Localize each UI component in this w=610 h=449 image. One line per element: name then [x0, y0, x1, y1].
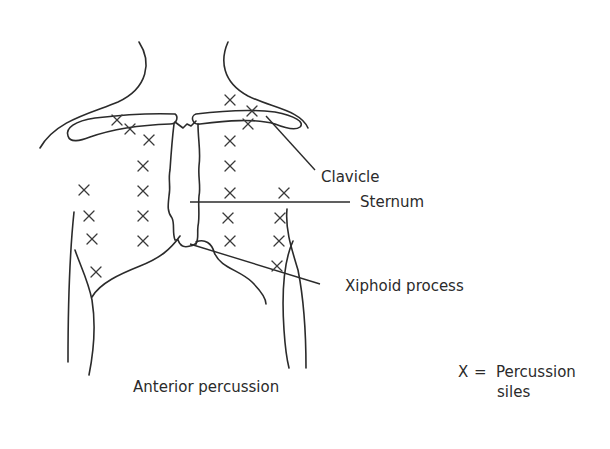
percussion-site-x-icon [91, 267, 101, 277]
percussion-site-x-icon [225, 188, 235, 198]
xiphoid-leader-line [190, 244, 320, 284]
sternum-left-edge [168, 124, 178, 240]
torso-left-side [75, 250, 94, 375]
legend-symbol: X [458, 363, 468, 381]
sternum-label: Sternum [360, 193, 424, 211]
percussion-site-x-icon [274, 236, 284, 246]
diagram-canvas: Clavicle Sternum Xiphoid process Anterio… [0, 0, 610, 449]
clavicle-left [67, 114, 176, 141]
costal-margin-left [92, 236, 180, 297]
neck-left-outline [40, 42, 146, 148]
torso-right-side [287, 209, 306, 368]
costal-margin-right [196, 241, 266, 304]
percussion-site-x-icon [275, 213, 285, 223]
neck-right-outline [224, 42, 308, 128]
legend-line2: siles [497, 383, 530, 401]
legend-equals: = [474, 363, 487, 381]
percussion-site-x-icon [87, 234, 97, 244]
percussion-site-x-icon [138, 161, 148, 171]
percussion-site-x-icon [225, 236, 235, 246]
clavicle-label: Clavicle [321, 168, 380, 186]
xiphoid-label: Xiphoid process [345, 277, 464, 295]
legend-line1: Percussion [496, 363, 576, 381]
percussion-site-x-icon [84, 211, 94, 221]
percussion-sites [79, 95, 289, 277]
percussion-site-x-icon [223, 213, 233, 223]
percussion-site-x-icon [79, 185, 89, 195]
anterior-percussion-diagram: Clavicle Sternum Xiphoid process Anterio… [0, 0, 610, 449]
percussion-site-x-icon [138, 236, 148, 246]
percussion-site-x-icon [279, 188, 289, 198]
diagram-title: Anterior percussion [133, 378, 279, 396]
percussion-site-x-icon [225, 95, 235, 105]
percussion-site-x-icon [225, 161, 235, 171]
clavicle-right [193, 111, 302, 129]
percussion-site-x-icon [138, 186, 148, 196]
percussion-site-x-icon [272, 261, 282, 271]
percussion-site-x-icon [144, 135, 154, 145]
arm-right-inner [283, 241, 293, 368]
percussion-site-x-icon [225, 136, 235, 146]
percussion-site-x-icon [125, 124, 135, 134]
clavicle-leader-line [266, 116, 315, 170]
sternum-right-edge [196, 124, 200, 244]
percussion-site-x-icon [138, 211, 148, 221]
legend: X = Percussion siles [458, 363, 576, 401]
arm-left-outer [68, 212, 74, 362]
